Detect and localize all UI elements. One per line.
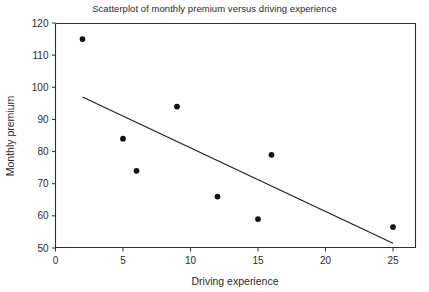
- y-tick-label: 60: [37, 210, 49, 221]
- scatterplot-figure: Scatterplot of monthly premium versus dr…: [0, 0, 429, 292]
- y-axis-ticks: 5060708090100110120: [32, 18, 56, 254]
- plot-border: [56, 24, 416, 248]
- data-point: [174, 104, 180, 110]
- x-tick-label: 5: [120, 255, 126, 266]
- data-point: [80, 36, 86, 42]
- x-tick-label: 10: [185, 255, 197, 266]
- x-axis-ticks: 0510152025: [53, 248, 399, 266]
- y-tick-label: 90: [37, 114, 49, 125]
- y-tick-label: 120: [32, 18, 49, 29]
- data-point: [255, 216, 261, 222]
- x-axis-title: Driving experience: [192, 275, 279, 287]
- y-tick-label: 110: [33, 50, 49, 61]
- regression-line: [83, 97, 394, 243]
- regression-line-group: [83, 97, 394, 243]
- data-point: [120, 136, 126, 142]
- x-tick-label: 0: [53, 255, 59, 266]
- data-point: [390, 224, 396, 230]
- data-point: [215, 194, 221, 200]
- data-point: [269, 152, 275, 158]
- y-tick-label: 70: [37, 178, 49, 189]
- y-axis-title: Monthly premium: [4, 95, 16, 176]
- plot-canvas: 5060708090100110120 0510152025 Driving e…: [0, 0, 429, 292]
- x-tick-label: 20: [320, 255, 332, 266]
- y-tick-label: 80: [37, 146, 49, 157]
- axis-frame: [56, 24, 416, 248]
- data-points-group: [80, 36, 396, 230]
- x-tick-label: 15: [252, 255, 264, 266]
- data-point: [134, 168, 140, 174]
- y-tick-label: 50: [37, 243, 49, 254]
- x-tick-label: 25: [387, 255, 399, 266]
- y-tick-label: 100: [32, 82, 49, 93]
